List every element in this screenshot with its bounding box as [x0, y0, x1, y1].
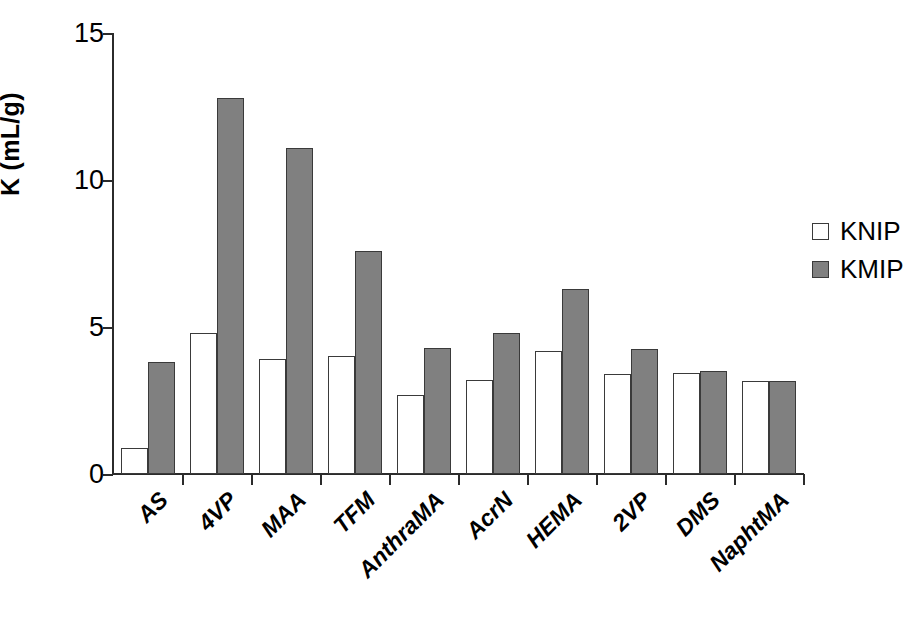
- x-tick-mark: [458, 474, 460, 485]
- bar: [190, 333, 217, 474]
- x-axis-label: 4VP: [194, 488, 241, 535]
- y-tick-mark: [103, 33, 113, 35]
- x-tick-mark: [803, 474, 805, 485]
- y-tick-label: 0: [89, 461, 104, 488]
- legend: KNIPKMIP: [812, 212, 904, 288]
- y-tick-label: 15: [74, 20, 104, 47]
- bar: [424, 348, 451, 474]
- x-tick-mark: [527, 474, 529, 485]
- white-square-icon: [812, 223, 829, 240]
- x-axis-label: DMS: [672, 488, 724, 540]
- bar: [769, 381, 796, 474]
- bar: [466, 380, 493, 474]
- bar: [604, 374, 631, 474]
- bar: [259, 359, 286, 474]
- y-tick-mark: [103, 474, 113, 476]
- x-tick-mark: [251, 474, 253, 485]
- bar: [148, 362, 175, 474]
- x-tick-mark: [182, 474, 184, 485]
- x-tick-mark: [596, 474, 598, 485]
- legend-item: KNIP: [812, 212, 904, 250]
- y-axis-title: K (mL/g): [0, 92, 25, 196]
- x-axis-label: TFM: [329, 488, 379, 538]
- bar: [355, 251, 382, 474]
- bar: [286, 148, 313, 474]
- x-tick-mark: [320, 474, 322, 485]
- bar: [328, 356, 355, 474]
- gray-square-icon: [812, 261, 829, 278]
- legend-label: KMIP: [840, 256, 904, 282]
- y-tick-label: 5: [89, 314, 104, 341]
- bar: [217, 98, 244, 474]
- bar: [631, 349, 658, 474]
- y-tick-mark: [103, 327, 113, 329]
- bar: [700, 371, 727, 474]
- bar: [121, 448, 148, 474]
- bar: [562, 289, 589, 474]
- bar: [535, 351, 562, 474]
- x-axis-label: HEMA: [522, 488, 586, 552]
- y-tick-mark: [103, 180, 113, 182]
- bar: [742, 381, 769, 474]
- bar-chart: K (mL/g) 051015 AS4VPMAATFMAnthraMAAcrNH…: [0, 0, 924, 633]
- x-axis-label: AcrN: [462, 488, 517, 543]
- y-tick-label: 10: [74, 167, 104, 194]
- bar: [673, 373, 700, 474]
- bar: [493, 333, 520, 474]
- x-tick-mark: [389, 474, 391, 485]
- x-tick-mark: [734, 474, 736, 485]
- legend-label: KNIP: [840, 218, 901, 244]
- x-tick-mark: [665, 474, 667, 485]
- bar: [397, 395, 424, 474]
- plot-area: 051015: [113, 33, 803, 474]
- x-axis-label: AS: [133, 488, 172, 527]
- x-axis-label: MAA: [257, 488, 310, 541]
- x-axis-label: 2VP: [608, 488, 655, 535]
- legend-item: KMIP: [812, 250, 904, 288]
